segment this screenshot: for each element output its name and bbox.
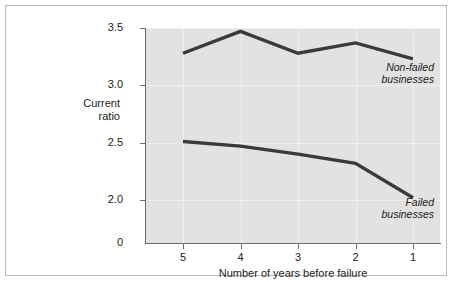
y-axis-tick-label: 3.5 [108,21,123,33]
y-axis-line [145,28,146,244]
figure-frame: 3.53.02.52.00 54321 Current ratio Number… [5,5,447,276]
annotation-failed-line-1: Failed [322,196,434,208]
y-axis-tick-label: 0 [117,236,123,248]
x-axis-tick-label: 3 [288,251,308,263]
x-axis-tick-label: 2 [346,251,366,263]
x-axis-tick-label: 4 [231,251,251,263]
y-axis-tick-mark [140,28,145,29]
y-axis-tick-mark [140,200,145,201]
annotation-non-failed-line-1: Non-failed [306,61,434,73]
x-axis-tick-mark [241,244,242,249]
annotation-failed-line-2: businesses [322,208,434,220]
series-line-failed-businesses [183,142,413,198]
x-axis-tick-mark [356,244,357,249]
series-annotation-non-failed-businesses: Non-failed businesses [306,61,434,85]
x-axis-line [145,243,441,244]
figure-container: 3.53.02.52.00 54321 Current ratio Number… [0,0,454,282]
y-axis-tick-label: 2.5 [108,136,123,148]
y-axis-tick-mark [140,143,145,144]
x-axis-tick-label: 1 [403,251,423,263]
x-axis-tick-mark [298,244,299,249]
series-line-non-failed-businesses [183,31,413,59]
x-axis-tick-mark [413,244,414,249]
y-axis-tick-label: 2.0 [108,193,123,205]
y-axis-title-line-1: Current [58,97,120,110]
annotation-non-failed-line-2: businesses [306,73,434,85]
x-axis-title: Number of years before failure [146,267,440,279]
x-axis-tick-mark [183,244,184,249]
y-axis-title: Current ratio [58,97,120,123]
y-axis-tick-label: 3.0 [108,78,123,90]
series-annotation-failed-businesses: Failed businesses [322,196,434,220]
y-axis-tick-mark [140,85,145,86]
y-axis-title-line-2: ratio [58,110,120,123]
x-axis-tick-label: 5 [173,251,193,263]
